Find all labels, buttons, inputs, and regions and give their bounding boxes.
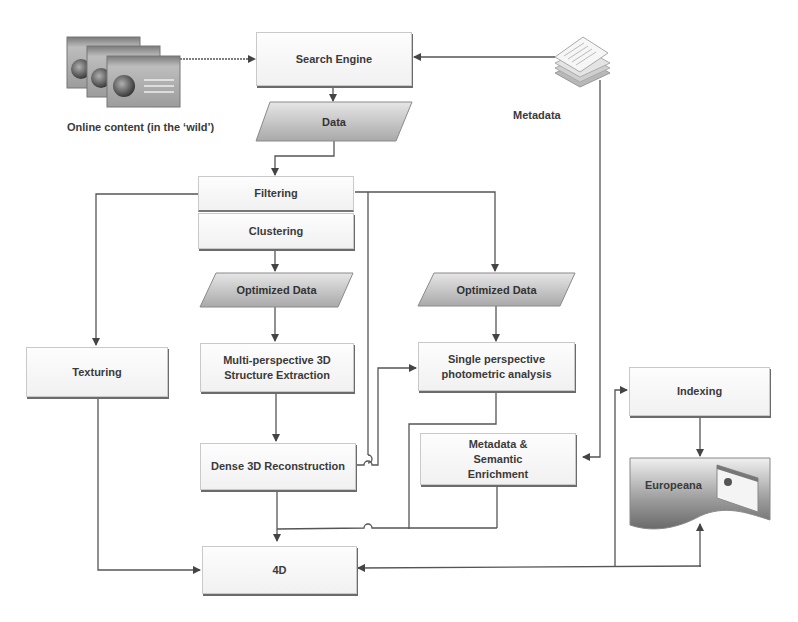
diagram-canvas [0, 0, 798, 622]
multi-perspective-label: Multi-perspective 3D Structure Extractio… [219, 353, 335, 383]
filtering-label: Filtering [254, 186, 297, 201]
document-stack-icon [555, 37, 610, 87]
edge-bottom-to-indexing [615, 390, 627, 567]
filtering-node[interactable]: Filtering [198, 176, 354, 212]
optimized-data-right-node[interactable]: Optimized Data [418, 273, 575, 306]
search-engine-node[interactable]: Search Engine [256, 32, 412, 86]
clustering-label: Clustering [249, 224, 303, 239]
single-perspective-node[interactable]: Single perspective photometric analysis [418, 342, 575, 391]
edge-filtering-to-texturing [96, 194, 198, 345]
edge-merge-line [277, 524, 497, 529]
edge-data-to-filtering [275, 141, 334, 175]
data-node[interactable]: Data [256, 102, 412, 141]
edge-metadata-to-enrichment [583, 80, 600, 457]
optimized-data-left-node[interactable]: Optimized Data [200, 273, 353, 307]
optimized-data-right-label: Optimized Data [456, 284, 536, 296]
optimized-data-left-label: Optimized Data [236, 284, 316, 296]
clustering-node[interactable]: Clustering [198, 213, 354, 249]
4d-label: 4D [272, 563, 286, 578]
edge-dense-to-single [356, 368, 416, 465]
europeana-shape [630, 458, 770, 529]
metadata-enrichment-label: Metadata & Semantic Enrichment [443, 437, 553, 482]
metadata-label: Metadata [513, 109, 561, 121]
search-engine-label: Search Engine [296, 52, 372, 67]
data-label: Data [322, 116, 346, 128]
metadata-enrichment-node[interactable]: Metadata & Semantic Enrichment [420, 433, 576, 485]
edge-bottom-to-4d [358, 566, 701, 568]
dense-reconstruction-label: Dense 3D Reconstruction [211, 459, 345, 474]
4d-node[interactable]: 4D [202, 546, 357, 594]
texturing-node[interactable]: Texturing [26, 347, 168, 397]
edge-texturing-to-4d [98, 398, 200, 570]
edge-filtering-to-optdata-right [355, 192, 495, 271]
multi-perspective-node[interactable]: Multi-perspective 3D Structure Extractio… [200, 343, 354, 392]
indexing-label: Indexing [677, 384, 722, 399]
texturing-label: Texturing [72, 365, 121, 380]
online-content-label: Online content (in the ‘wild’) [67, 121, 214, 133]
indexing-node[interactable]: Indexing [629, 367, 770, 416]
dense-reconstruction-node[interactable]: Dense 3D Reconstruction [200, 443, 356, 490]
europeana-label: Europeana [645, 479, 702, 491]
web-pages-stack-icon [67, 37, 180, 107]
single-perspective-label: Single perspective photometric analysis [429, 352, 564, 382]
